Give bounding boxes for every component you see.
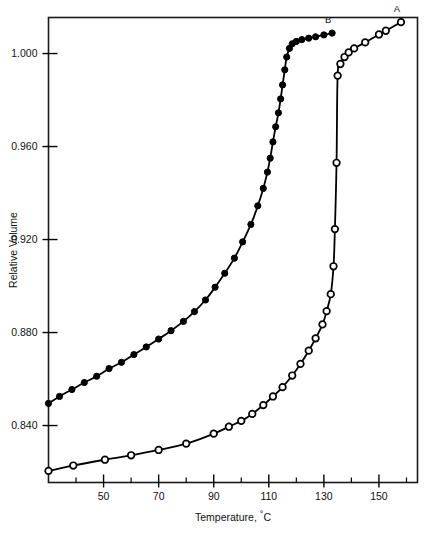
data-point-marker xyxy=(45,468,52,475)
series-label-a: A xyxy=(394,3,401,14)
data-point-marker xyxy=(330,263,337,270)
data-point-marker xyxy=(56,393,62,399)
data-point-marker xyxy=(70,462,77,469)
data-point-marker xyxy=(81,379,87,385)
relative-volume-vs-temperature-chart: 0.8400.8800.9200.9601.000 50709011013015… xyxy=(0,0,434,535)
y-tick-label: 1.000 xyxy=(11,47,37,59)
data-point-marker xyxy=(202,297,208,303)
data-point-marker xyxy=(102,456,109,463)
data-point-marker xyxy=(240,239,246,245)
data-point-marker xyxy=(267,155,273,161)
data-point-marker xyxy=(299,36,305,42)
data-point-marker xyxy=(255,203,261,209)
data-point-marker xyxy=(128,452,135,459)
data-point-marker xyxy=(398,19,405,26)
data-point-marker xyxy=(260,185,266,191)
data-point-marker xyxy=(351,45,358,52)
data-point-marker xyxy=(279,384,286,391)
data-point-marker xyxy=(69,386,75,392)
data-point-marker xyxy=(289,372,296,379)
y-axis-title: Relative Volume xyxy=(7,212,19,288)
y-tick-label: 0.840 xyxy=(11,419,37,431)
data-point-marker xyxy=(106,365,112,371)
data-point-marker xyxy=(183,440,190,447)
figure-container: 0.8400.8800.9200.9601.000 50709011013015… xyxy=(0,0,434,535)
data-point-marker xyxy=(273,124,279,130)
data-point-marker xyxy=(329,30,335,36)
series-label-b: B xyxy=(325,14,331,25)
data-point-marker xyxy=(305,347,312,354)
data-point-marker xyxy=(222,270,228,276)
data-point-marker xyxy=(260,402,267,409)
data-point-marker xyxy=(362,39,369,46)
data-point-marker xyxy=(180,318,186,324)
data-point-marker xyxy=(238,418,245,425)
y-tick-label: 0.960 xyxy=(11,140,37,152)
data-point-marker xyxy=(155,447,162,454)
data-point-marker xyxy=(248,221,254,227)
data-point-marker xyxy=(323,308,330,315)
data-point-marker xyxy=(334,72,341,79)
data-point-marker xyxy=(312,335,319,342)
data-point-marker xyxy=(45,400,51,406)
x-tick-label: 90 xyxy=(208,490,220,502)
data-point-marker xyxy=(270,393,277,400)
y-tick-label: 0.880 xyxy=(11,326,37,338)
data-point-marker xyxy=(191,309,197,315)
data-point-marker xyxy=(131,352,137,358)
x-tick-label: 50 xyxy=(98,490,110,502)
data-point-marker xyxy=(226,423,233,430)
data-point-marker xyxy=(297,361,304,368)
x-title-main: Temperature, xyxy=(195,511,260,523)
data-point-marker xyxy=(278,96,284,102)
data-point-marker xyxy=(279,82,285,88)
data-point-marker xyxy=(156,336,162,342)
data-point-marker xyxy=(282,67,288,73)
data-point-marker xyxy=(327,291,334,298)
data-point-marker xyxy=(94,373,100,379)
data-point-marker xyxy=(249,411,256,418)
data-point-marker xyxy=(321,32,327,38)
x-tick-label: 150 xyxy=(370,490,388,502)
data-point-marker xyxy=(210,430,217,437)
data-point-marker xyxy=(270,139,276,145)
data-point-marker xyxy=(284,54,290,60)
data-point-marker xyxy=(231,255,237,261)
x-tick-label: 110 xyxy=(260,490,277,502)
data-point-marker xyxy=(264,169,270,175)
data-point-marker xyxy=(143,344,149,350)
data-point-marker xyxy=(313,34,319,40)
x-tick-label: 70 xyxy=(153,490,165,502)
data-point-marker xyxy=(337,61,344,68)
x-tick-label: 130 xyxy=(315,490,333,502)
data-point-marker xyxy=(376,31,383,38)
data-point-marker xyxy=(383,27,390,34)
data-point-marker xyxy=(333,160,340,167)
x-title-unit: C xyxy=(263,511,271,523)
data-point-marker xyxy=(332,226,339,233)
data-point-marker xyxy=(275,110,281,116)
data-point-marker xyxy=(168,328,174,334)
chart-background xyxy=(0,0,434,535)
data-point-marker xyxy=(212,284,218,290)
data-point-marker xyxy=(319,321,326,328)
data-point-marker xyxy=(306,35,312,41)
data-point-marker xyxy=(118,359,124,365)
